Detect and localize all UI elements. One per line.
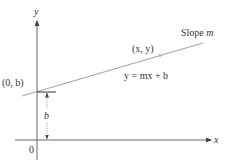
slope-label-var: m [206, 27, 213, 38]
slope-label: Slope m [181, 27, 214, 38]
slope-label-prefix: Slope [181, 27, 204, 38]
slope-intercept-diagram: y x 0 (0, b) b (x, y) y = mx + b Slope m [0, 0, 227, 163]
x-axis-label: x [213, 134, 219, 145]
equation-label: y = mx + b [124, 70, 168, 81]
y-axis-label: y [33, 6, 39, 17]
origin-label: 0 [29, 144, 34, 155]
point-marker [159, 54, 162, 57]
point-label: (x, y) [132, 43, 154, 55]
intercept-label-text: (0, b) [2, 77, 24, 89]
slope-line [22, 43, 203, 96]
intercept-label: (0, b) [2, 77, 24, 89]
dimension-b-label: b [44, 110, 49, 121]
